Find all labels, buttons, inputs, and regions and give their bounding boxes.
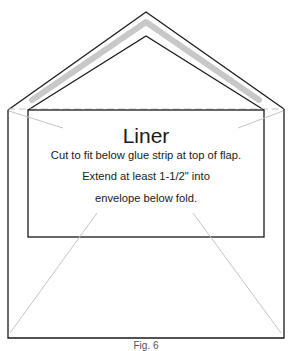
instruction-line-2: Extend at least 1-1/2" into [27,170,265,182]
guide-line-bottom-left [10,213,97,333]
glue-strip [32,22,259,100]
outer-flap-outline [8,12,284,110]
liner-title: Liner [27,124,265,148]
liner-flap-outline [28,36,264,110]
figure-caption: Fig. 6 [0,340,292,351]
instruction-line-3: envelope below fold. [27,192,265,204]
instruction-line-1: Cut to fit below glue strip at top of fl… [27,149,265,161]
guide-line-bottom-right [193,213,281,333]
